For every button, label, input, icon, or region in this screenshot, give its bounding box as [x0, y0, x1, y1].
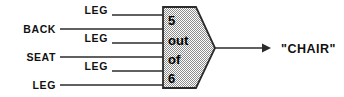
input-label-3: SEAT: [26, 51, 56, 63]
input-label-4: LEG: [85, 60, 108, 72]
gate-label-line-2: of: [168, 52, 181, 67]
diagram-canvas: LEG BACK LEG SEAT LEG LEG 5 out of 6 "CH…: [0, 0, 344, 97]
gate-label-line-0: 5: [168, 13, 175, 28]
input-label-2: LEG: [85, 32, 108, 44]
output-wire-group: [215, 44, 271, 53]
gate-label-line-1: out: [168, 33, 189, 48]
input-wires: [60, 15, 163, 85]
input-labels: LEG BACK LEG SEAT LEG LEG: [23, 4, 108, 91]
output-label: "CHAIR": [281, 42, 336, 56]
input-label-0: LEG: [85, 4, 108, 16]
input-label-1: BACK: [23, 23, 56, 35]
output-arrowhead: [262, 44, 271, 53]
threshold-gate-diagram: LEG BACK LEG SEAT LEG LEG 5 out of 6 "CH…: [0, 0, 344, 97]
input-label-5: LEG: [33, 79, 56, 91]
gate-label-line-3: 6: [168, 71, 175, 86]
